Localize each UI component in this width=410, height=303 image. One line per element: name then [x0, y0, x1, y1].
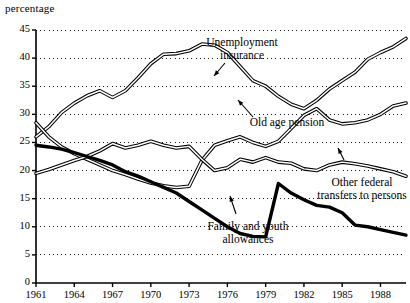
y-tick-label: 5: [4, 248, 30, 259]
annotation-old-age-pension: Old age pension: [232, 116, 342, 129]
annotation-line: Other federal: [314, 176, 410, 189]
y-tick-label: 10: [4, 220, 30, 231]
y-tick-label: 40: [4, 51, 30, 62]
annotation-family-and-youth-allowances: Family and youthallowances: [192, 220, 304, 245]
annotation-line: Family and youth: [192, 220, 304, 233]
annotation-unemployment-insurance: Unemploymentinsurance: [187, 36, 297, 61]
annotation-line: allowances: [192, 233, 304, 246]
y-tick-label: 35: [4, 79, 30, 90]
annotation-arrowhead: [338, 148, 342, 154]
y-tick-label: 15: [4, 192, 30, 203]
y-tick-label: 0: [4, 276, 30, 287]
y-tick-label: 25: [4, 135, 30, 146]
y-tick-label: 20: [4, 164, 30, 175]
annotation-arrowhead: [230, 196, 234, 202]
y-tick-label: 30: [4, 107, 30, 118]
annotation-line: Unemployment: [187, 36, 297, 49]
annotation-other-federal-transfers: Other federaltransfers to persons: [314, 176, 410, 201]
annotation-line: Old age pension: [232, 116, 342, 129]
series-line-core: [36, 103, 406, 187]
x-tick-label: 1988: [358, 289, 402, 300]
chart-figure: percentage 05101520253035404519611964196…: [0, 0, 410, 303]
annotation-line: insurance: [187, 49, 297, 62]
y-tick-label: 45: [4, 23, 30, 34]
series-line-outline: [36, 103, 406, 187]
annotation-line: transfers to persons: [314, 189, 410, 202]
